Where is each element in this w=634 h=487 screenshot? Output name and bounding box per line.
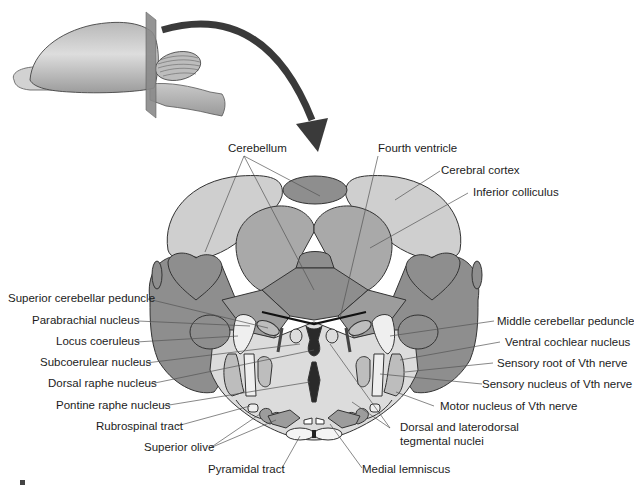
label-subcoerulear-nucleus: Subcoerulear nucleus — [40, 356, 151, 369]
corner-mark — [20, 480, 25, 485]
lateral-brain-inset — [13, 12, 225, 118]
label-locus-coeruleus: Locus coeruleus — [56, 335, 140, 348]
label-dorsal-laterodorsal-line1: Dorsal and laterodorsal — [400, 421, 519, 434]
label-dorsal-laterodorsal-line2: tegmental nuclei — [400, 435, 484, 448]
label-pyramidal-tract: Pyramidal tract — [208, 463, 285, 476]
label-cerebral-cortex: Cerebral cortex — [441, 164, 520, 177]
label-dorsal-raphe-nucleus: Dorsal raphe nucleus — [48, 377, 157, 390]
label-superior-olive: Superior olive — [144, 441, 214, 454]
label-middle-cerebellar-peduncle: Middle cerebellar peduncle — [497, 315, 634, 328]
label-cerebellum: Cerebellum — [228, 142, 287, 155]
label-pontine-raphe-nucleus: Pontine raphe nucleus — [56, 399, 170, 412]
label-parabrachial-nucleus: Parabrachial nucleus — [32, 314, 139, 327]
label-superior-cerebellar-peduncle: Superior cerebellar peduncle — [8, 292, 155, 305]
label-rubrospinal-tract: Rubrospinal tract — [96, 420, 183, 433]
label-medial-lemniscus: Medial lemniscus — [362, 463, 450, 476]
label-ventral-cochlear-nucleus: Ventral cochlear nucleus — [505, 336, 630, 349]
label-sensory-root-vth: Sensory root of Vth nerve — [497, 357, 627, 370]
cerebellum-vermis — [283, 176, 347, 204]
label-motor-nucleus-vth: Motor nucleus of Vth nerve — [440, 400, 577, 413]
label-fourth-ventricle: Fourth ventricle — [378, 142, 457, 155]
label-inferior-colliculus: Inferior colliculus — [473, 186, 559, 199]
label-sensory-nucleus-vth: Sensory nucleus of Vth nerve — [482, 378, 632, 391]
